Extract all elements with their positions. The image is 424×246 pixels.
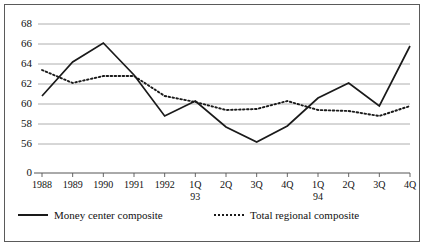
series-line-total-regional-composite: [42, 70, 410, 116]
legend-label: Money center composite: [54, 209, 163, 221]
x-tick-label-3: 1991: [124, 179, 144, 190]
y-tick-label-68: 68: [8, 18, 32, 29]
series-line-money-center-composite: [42, 43, 410, 142]
x-tick-label-4: 1992: [155, 179, 175, 190]
y-axis-break-zero-label: 0: [8, 167, 32, 178]
y-tick-label-62: 62: [8, 78, 32, 89]
legend-label: Total regional composite: [250, 209, 359, 221]
axis-group: [34, 173, 410, 177]
x-tick-label-1: 1989: [63, 179, 83, 190]
y-tick-label-56: 56: [8, 138, 32, 149]
x-tick-label-0: 1988: [32, 179, 52, 190]
legend-entry-total-regional-composite[interactable]: Total regional composite: [214, 206, 359, 224]
x-tick-label-7: 3Q: [251, 179, 263, 190]
x-tick-label-12: 4Q: [404, 179, 416, 190]
legend-entry-money-center-composite[interactable]: Money center composite: [18, 206, 163, 224]
legend-swatch-dotted-line-icon: [214, 210, 244, 220]
y-tick-label-60: 60: [8, 98, 32, 109]
x-tick-label-8: 4Q: [281, 179, 293, 190]
x-tick-label-10: 2Q: [343, 179, 355, 190]
legend-swatch-solid-line-icon: [18, 210, 48, 220]
x-tick-sublabel-5: 93: [190, 191, 200, 202]
series-lines-group: [42, 43, 410, 142]
x-tick-label-11: 3Q: [373, 179, 385, 190]
y-tick-label-64: 64: [8, 58, 32, 69]
x-tick-label-5: 1Q: [189, 179, 201, 190]
x-tick-sublabel-9: 94: [313, 191, 323, 202]
chart-legend: Money center compositeTotal regional com…: [18, 206, 408, 226]
x-tick-label-6: 2Q: [220, 179, 232, 190]
x-tick-label-9: 1Q: [312, 179, 324, 190]
x-tick-label-2: 1990: [93, 179, 113, 190]
y-tick-label-58: 58: [8, 118, 32, 129]
y-tick-label-66: 66: [8, 38, 32, 49]
chart-figure: 686664626058560 198819891990199119921Q93…: [0, 0, 424, 246]
